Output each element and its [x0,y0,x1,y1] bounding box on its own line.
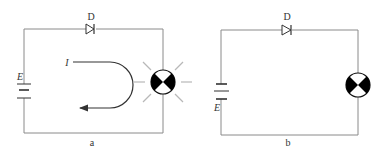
current-arrow-icon [73,62,133,108]
diode-icon [86,24,94,34]
circuit-b-wires [221,30,358,135]
caption-b: b [286,137,291,148]
diode-label: D [283,11,290,22]
battery-icon [17,84,31,98]
circuit-diagram: D E I a [0,0,384,156]
caption-a: a [90,137,95,148]
circuit-a-wires [24,29,163,133]
source-label: E [16,71,23,82]
circuit-a: D E I a [16,11,192,148]
diode-label: D [87,11,94,22]
circuit-b: D E b [213,11,370,148]
lamp-icon [151,70,175,94]
diode-icon [282,25,291,35]
current-label: I [64,57,69,68]
battery-icon [214,84,229,99]
source-label: E [213,102,220,113]
lamp-icon [346,73,370,97]
